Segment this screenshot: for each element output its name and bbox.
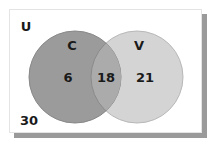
intersection-value: 18 <box>97 70 115 85</box>
set-c-label: C <box>67 38 77 53</box>
outside-value: 30 <box>20 113 38 128</box>
set-c-only-value: 6 <box>63 70 72 85</box>
set-v-label: V <box>134 38 144 53</box>
universe-label: U <box>21 19 32 34</box>
set-v-only-value: 21 <box>136 70 154 85</box>
